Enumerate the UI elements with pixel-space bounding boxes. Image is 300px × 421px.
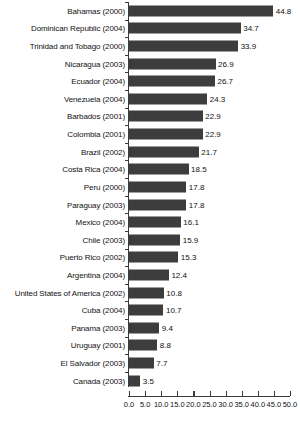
bar-value-label: 17.8 — [186, 182, 204, 191]
bar-value-label: 24.3 — [207, 94, 225, 103]
bar-chart: Bahamas (2000)44.8Dominican Republic (20… — [0, 0, 300, 421]
bar — [129, 23, 241, 34]
bar — [129, 375, 140, 386]
bar — [129, 164, 189, 175]
x-axis-tick — [129, 391, 130, 396]
category-label: Panama (2003) — [71, 323, 125, 332]
bar — [129, 58, 216, 69]
category-label: Puerto Rico (2002) — [60, 253, 125, 262]
x-axis-tick-label: 25.0 — [202, 400, 217, 409]
chart-row: Costa Rica (2004)18.5 — [0, 160, 300, 178]
bar-value-label: 15.3 — [178, 253, 196, 262]
x-axis-tick-label: 20.0 — [186, 400, 201, 409]
x-axis-tick-label: 15.0 — [170, 400, 185, 409]
chart-row: Brazil (2002)21.7 — [0, 143, 300, 161]
x-axis-tick-label: 5.0 — [140, 400, 150, 409]
chart-row: El Salvador (2003)7.7 — [0, 354, 300, 372]
category-label: Colombia (2001) — [67, 130, 125, 139]
bar-value-label: 15.9 — [180, 235, 198, 244]
category-label: Paraguay (2003) — [67, 200, 125, 209]
category-label: Trinidad and Tobago (2000) — [30, 42, 125, 51]
category-label: Nicaragua (2003) — [65, 59, 125, 68]
category-label: Ecuador (2004) — [71, 77, 125, 86]
x-axis-tick — [274, 391, 275, 396]
category-label: Dominican Republic (2004) — [31, 24, 125, 33]
x-axis-tick — [258, 391, 259, 396]
x-axis-tick-label: 45.0 — [267, 400, 282, 409]
chart-row: Paraguay (2003)17.8 — [0, 196, 300, 214]
x-axis-tick — [161, 391, 162, 396]
bar-value-label: 16.1 — [181, 218, 199, 227]
bar-value-label: 3.5 — [140, 376, 154, 385]
category-label: El Salvador (2003) — [61, 358, 125, 367]
chart-row: Cuba (2004)10.7 — [0, 301, 300, 319]
x-axis-line — [128, 396, 290, 397]
x-axis-tick-label: 10.0 — [154, 400, 169, 409]
chart-row: Canada (2003)3.5 — [0, 372, 300, 390]
chart-plot-area: Bahamas (2000)44.8Dominican Republic (20… — [0, 2, 300, 389]
bar-value-label: 7.7 — [154, 358, 168, 367]
category-label: Canada (2003) — [73, 376, 125, 385]
x-axis-tick-label: 0.0 — [124, 400, 134, 409]
bar-value-label: 10.8 — [164, 288, 182, 297]
category-label: Venezuela (2004) — [64, 94, 125, 103]
x-axis-tick-label: 40.0 — [250, 400, 265, 409]
bar-value-label: 21.7 — [199, 147, 217, 156]
chart-row: Dominican Republic (2004)34.7 — [0, 20, 300, 38]
bar-value-label: 12.4 — [169, 270, 187, 279]
chart-row: Colombia (2001)22.9 — [0, 125, 300, 143]
bar-value-label: 22.9 — [203, 130, 221, 139]
bar-value-label: 26.9 — [216, 59, 234, 68]
bar — [129, 357, 154, 368]
bar — [129, 305, 163, 316]
x-axis-tick — [226, 391, 227, 396]
category-label: Cuba (2004) — [82, 306, 125, 315]
category-label: Bahamas (2000) — [67, 6, 125, 15]
x-axis-tick — [210, 391, 211, 396]
x-axis-tick — [145, 391, 146, 396]
bar — [129, 93, 207, 104]
bar-value-label: 33.9 — [238, 42, 256, 51]
bar — [129, 269, 169, 280]
category-label: Brazil (2002) — [81, 147, 125, 156]
chart-row: Argentina (2004)12.4 — [0, 266, 300, 284]
bar — [129, 181, 186, 192]
bar — [129, 252, 178, 263]
bar — [129, 146, 199, 157]
category-label: Barbados (2001) — [67, 112, 125, 121]
bar-value-label: 22.9 — [203, 112, 221, 121]
category-label: United States of America (2002) — [15, 288, 125, 297]
bar — [129, 5, 273, 16]
bar — [129, 129, 203, 140]
category-label: Mexico (2004) — [76, 218, 125, 227]
bar-value-label: 34.7 — [241, 24, 259, 33]
bar — [129, 322, 159, 333]
chart-row: Trinidad and Tobago (2000)33.9 — [0, 37, 300, 55]
category-label: Argentina (2004) — [67, 270, 125, 279]
x-axis-tick-label: 35.0 — [234, 400, 249, 409]
chart-row: Ecuador (2004)26.7 — [0, 72, 300, 90]
bar-value-label: 44.8 — [273, 6, 291, 15]
chart-row: Puerto Rico (2002)15.3 — [0, 249, 300, 267]
chart-row: Chile (2003)15.9 — [0, 231, 300, 249]
bar — [129, 111, 203, 122]
chart-row: Barbados (2001)22.9 — [0, 108, 300, 126]
bar-value-label: 10.7 — [163, 306, 181, 315]
bar-value-label: 26.7 — [215, 77, 233, 86]
x-axis-tick — [193, 391, 194, 396]
category-label: Peru (2000) — [84, 182, 125, 191]
bar — [129, 287, 164, 298]
category-label: Costa Rica (2004) — [62, 165, 125, 174]
bar — [129, 217, 181, 228]
chart-row: Peru (2000)17.8 — [0, 178, 300, 196]
chart-row: Uruguay (2001)8.8 — [0, 337, 300, 355]
chart-row: Nicaragua (2003)26.9 — [0, 55, 300, 73]
chart-row: Mexico (2004)16.1 — [0, 213, 300, 231]
bar-value-label: 17.8 — [186, 200, 204, 209]
chart-row: Panama (2003)9.4 — [0, 319, 300, 337]
bar-value-label: 8.8 — [157, 341, 171, 350]
chart-row: United States of America (2002)10.8 — [0, 284, 300, 302]
x-axis-tick — [242, 391, 243, 396]
bar — [129, 234, 180, 245]
bar-value-label: 18.5 — [189, 165, 207, 174]
